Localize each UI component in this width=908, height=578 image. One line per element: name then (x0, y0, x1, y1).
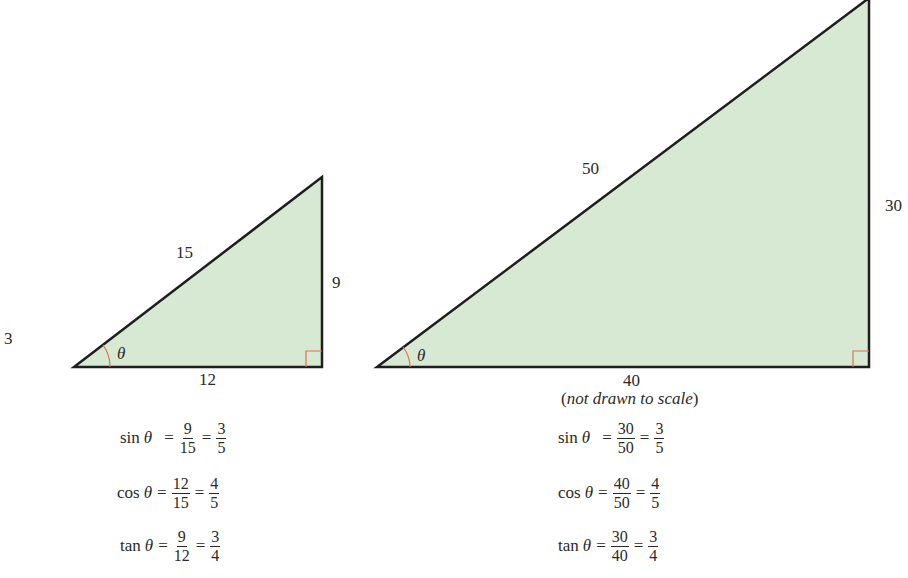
small-theta-label: θ (117, 345, 125, 362)
large-sin-equation: sinθ = 3050 = 35 (558, 420, 664, 456)
small-tan-equation: tanθ = 912 = 34 (120, 528, 220, 564)
large-hypotenuse-label: 50 (582, 160, 599, 177)
small-opposite-label: 9 (332, 274, 341, 291)
stray-label: 3 (4, 330, 13, 347)
small-adjacent-label: 12 (199, 371, 216, 388)
large-triangle (377, 0, 869, 367)
small-hypotenuse-label: 15 (176, 244, 193, 261)
large-opposite-label: 30 (885, 197, 902, 214)
small-triangle (74, 177, 322, 367)
small-sin-equation: sinθ = 915 = 35 (120, 420, 226, 456)
large-tan-equation: tanθ = 3040 = 34 (558, 528, 658, 564)
large-cos-equation: cosθ = 4050 = 45 (558, 475, 660, 511)
small-cos-equation: cosθ = 1215 = 45 (117, 475, 219, 511)
large-adjacent-label: 40 (623, 372, 640, 389)
not-to-scale-note: (not drawn to scale) (561, 390, 698, 407)
large-theta-label: θ (417, 347, 425, 364)
